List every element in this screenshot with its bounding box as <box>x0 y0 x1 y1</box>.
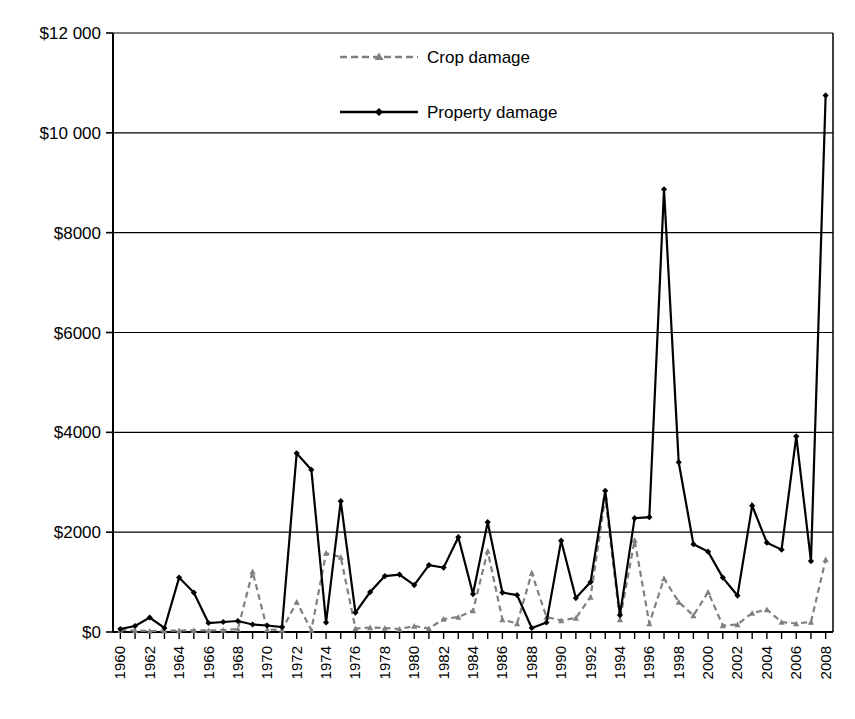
x-axis-label: 1966 <box>200 646 217 679</box>
x-axis-label: 1984 <box>464 646 481 679</box>
x-axis-label: 1996 <box>640 646 657 679</box>
y-axis-label: $12 000 <box>40 24 101 43</box>
legend-label-crop-damage: Crop damage <box>427 48 530 67</box>
y-axis-label: $4000 <box>54 423 101 442</box>
chart-canvas: $12 000$10 000$8000$6000$4000$2000$0 196… <box>0 0 855 719</box>
x-axis-label: 1974 <box>317 646 334 679</box>
x-axis-label: 1964 <box>170 646 187 679</box>
x-axis-label: 2006 <box>787 646 804 679</box>
y-axis-label: $2000 <box>54 523 101 542</box>
x-axis-label: 1994 <box>611 646 628 679</box>
x-axis-label: 2008 <box>817 646 834 679</box>
x-axis-label: 1986 <box>493 646 510 679</box>
x-axis-label: 1992 <box>582 646 599 679</box>
x-axis-label: 1988 <box>523 646 540 679</box>
x-axis-label: 1962 <box>141 646 158 679</box>
x-axis-label: 1972 <box>288 646 305 679</box>
y-axis-label: $10 000 <box>40 124 101 143</box>
x-axis-label: 2002 <box>728 646 745 679</box>
x-axis-label: 1990 <box>552 646 569 679</box>
x-axis-label: 1970 <box>258 646 275 679</box>
x-axis-label: 1998 <box>670 646 687 679</box>
damage-line-chart: $12 000$10 000$8000$6000$4000$2000$0 196… <box>0 0 855 719</box>
x-axis-label: 2004 <box>758 646 775 679</box>
x-axis-label: 1960 <box>111 646 128 679</box>
y-axis-label: $8000 <box>54 224 101 243</box>
y-axis-label: $6000 <box>54 324 101 343</box>
x-axis-label: 1982 <box>435 646 452 679</box>
x-axis-label: 1980 <box>405 646 422 679</box>
y-axis-label: $0 <box>82 623 101 642</box>
x-axis-label: 1976 <box>346 646 363 679</box>
x-axis-label: 2000 <box>699 646 716 679</box>
x-axis-label: 1978 <box>376 646 393 679</box>
legend-label-property-damage: Property damage <box>427 103 557 122</box>
x-axis-label: 1968 <box>229 646 246 679</box>
